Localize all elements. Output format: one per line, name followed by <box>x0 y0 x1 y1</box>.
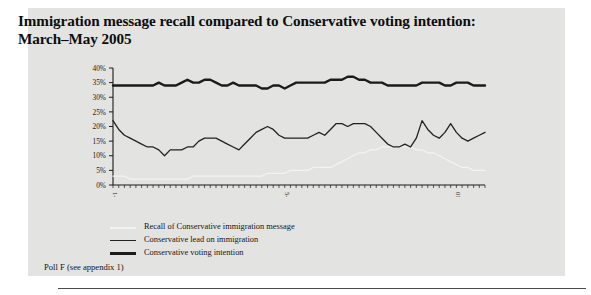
x-axis-tick-label: 01-04 May <box>455 192 462 197</box>
y-axis-tick-label: 10% <box>92 151 106 160</box>
data-series-group <box>113 77 485 179</box>
series-line <box>113 77 485 89</box>
line-chart-svg: 0%5%10%15%20%25%30%35%40% 1-4 Mar5-6 Apr… <box>55 52 515 197</box>
legend-item-recall: Recall of Conservative immigration messa… <box>110 221 450 234</box>
y-axis-tick-label: 0% <box>96 181 106 190</box>
chart-plot-area: 0%5%10%15%20%25%30%35%40% 1-4 Mar5-6 Apr… <box>55 52 515 197</box>
legend-label-voting-intention: Conservative voting intention <box>144 249 244 257</box>
y-axis-tick-label: 40% <box>92 64 106 73</box>
figure-title: Immigration message recall compared to C… <box>18 12 530 48</box>
footer-rule <box>58 288 586 289</box>
legend-label-lead: Conservative lead on immigration <box>144 236 258 244</box>
legend-swatch-voting-intention <box>110 252 136 255</box>
x-axis-label-group: 1-4 Mar5-6 Apr01-04 May <box>112 192 462 197</box>
series-line <box>113 121 485 156</box>
x-axis-tick-label: 5-6 Apr <box>284 192 291 197</box>
chart-legend: Recall of Conservative immigration messa… <box>110 221 450 260</box>
source-note: Poll F (see appendix 1) <box>44 262 124 272</box>
figure-container: Immigration message recall compared to C… <box>0 0 591 295</box>
y-axis-tick-label: 15% <box>92 137 106 146</box>
legend-item-voting-intention: Conservative voting intention <box>110 247 450 260</box>
y-axis-tick-label: 30% <box>92 93 106 102</box>
legend-label-recall: Recall of Conservative immigration messa… <box>144 223 295 231</box>
y-axis-tick-label: 20% <box>92 122 106 131</box>
x-axis-tick-label: 1-4 Mar <box>112 192 119 197</box>
legend-item-lead: Conservative lead on immigration <box>110 234 450 247</box>
y-axis-tick-label: 25% <box>92 108 106 117</box>
y-axis-tick-label: 35% <box>92 78 106 87</box>
y-axis-label-group: 0%5%10%15%20%25%30%35%40% <box>92 64 106 190</box>
legend-swatch-recall <box>110 227 136 229</box>
y-axis-tick-label: 5% <box>96 166 106 175</box>
legend-swatch-lead <box>110 240 136 241</box>
